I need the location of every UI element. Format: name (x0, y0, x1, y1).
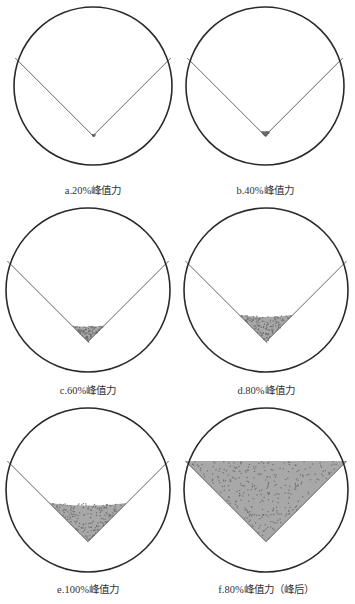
crack-mark (273, 514, 274, 515)
crack-mark (260, 333, 261, 334)
crack-mark (245, 472, 246, 473)
crack-mark (99, 326, 100, 327)
crack-mark (276, 522, 277, 523)
crack-mark (83, 503, 84, 504)
crack-mark (279, 324, 280, 325)
crack-mark (115, 511, 116, 512)
crack-mark (266, 476, 267, 477)
crack-mark (109, 505, 110, 506)
crack-mark (67, 505, 68, 506)
crack-mark (90, 326, 91, 327)
crack-mark (92, 329, 93, 330)
crack-mark (108, 515, 109, 516)
crack-mark (285, 479, 286, 480)
crack-mark (222, 486, 223, 487)
crack-mark (93, 326, 94, 327)
crack-mark (266, 131, 267, 132)
crack-mark (278, 327, 279, 328)
crack-mark (272, 330, 273, 331)
crack-mark (249, 515, 250, 516)
crack-mark (274, 317, 275, 318)
crack-mark (88, 328, 89, 329)
crack-mark (276, 507, 277, 508)
crack-mark (101, 508, 102, 509)
crack-mark (242, 496, 243, 497)
crack-mark (251, 506, 252, 507)
crack-mark (92, 507, 93, 508)
crack-mark (272, 470, 273, 471)
crack-mark (108, 516, 109, 517)
crack-mark (258, 474, 259, 475)
crack-mark (268, 482, 269, 483)
crack-mark (255, 522, 256, 523)
crack-mark (267, 337, 268, 338)
crack-mark (83, 515, 84, 516)
crack-mark (226, 470, 227, 471)
crack-mark (230, 479, 231, 480)
crack-mark (223, 461, 224, 462)
crack-mark (239, 495, 240, 496)
crack-mark (302, 474, 303, 475)
crack-mark (234, 471, 235, 472)
crack-mark (228, 500, 229, 501)
crack-mark (289, 486, 290, 487)
crack-mark (96, 331, 97, 332)
crack-mark (256, 318, 257, 319)
crack-mark (281, 320, 282, 321)
specimen-circle (6, 208, 170, 372)
crack-mark (249, 464, 250, 465)
crack-mark (219, 482, 220, 483)
crack-mark (263, 530, 264, 531)
crack-mark (255, 466, 256, 467)
crack-mark (261, 489, 262, 490)
crack-mark (83, 331, 84, 332)
crack-mark (230, 466, 231, 467)
crack-mark (301, 483, 302, 484)
crack-mark (328, 473, 329, 474)
crack-mark (263, 514, 264, 515)
crack-mark (277, 520, 278, 521)
crack-mark (259, 325, 260, 326)
crack-mark (250, 318, 251, 319)
specimen-circle (6, 408, 170, 572)
crack-mark (91, 513, 92, 514)
crack-mark (295, 507, 296, 508)
crack-mark (78, 329, 79, 330)
crack-mark (192, 464, 193, 465)
crack-mark (258, 463, 259, 464)
crack-mark (88, 508, 89, 509)
crack-mark (262, 535, 263, 536)
crack-mark (252, 514, 253, 515)
crack-mark (228, 496, 229, 497)
crack-mark (290, 507, 291, 508)
crack-mark (266, 529, 267, 530)
crack-mark (262, 517, 263, 518)
crack-mark (248, 512, 249, 513)
crack-mark (256, 488, 257, 489)
crack-mark (95, 505, 96, 506)
crack-mark (288, 511, 289, 512)
crack-mark (237, 507, 238, 508)
panel-caption: f.80%峰值力（峰后） (218, 583, 313, 595)
crack-mark (243, 485, 244, 486)
crack-mark (274, 494, 275, 495)
crack-mark (99, 515, 100, 516)
crack-mark (91, 327, 92, 328)
crack-mark (92, 332, 93, 333)
crack-mark (253, 498, 254, 499)
crack-mark (321, 467, 322, 468)
crack-mark (273, 521, 274, 522)
crack-mark (103, 505, 104, 506)
crack-mark (84, 327, 85, 328)
crack-mark (267, 463, 268, 464)
crack-mark (88, 326, 89, 327)
crack-mark (70, 518, 71, 519)
crack-mark (266, 326, 267, 327)
crack-mark (67, 519, 68, 520)
crack-mark (240, 500, 241, 501)
crack-mark (76, 521, 77, 522)
crack-mark (247, 481, 248, 482)
crack-mark (233, 478, 234, 479)
crack-mark (96, 526, 97, 527)
crack-mark (296, 506, 297, 507)
